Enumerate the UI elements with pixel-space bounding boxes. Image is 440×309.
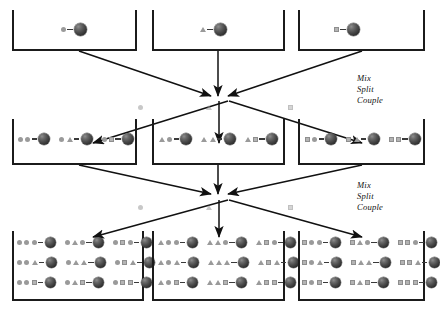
square-icon bbox=[396, 137, 401, 142]
g1-vessel-2 bbox=[152, 10, 285, 51]
bead-chain bbox=[258, 257, 299, 268]
bead-chain bbox=[351, 257, 392, 268]
bond-line bbox=[180, 282, 185, 284]
circle-icon bbox=[312, 137, 317, 142]
triangle-icon bbox=[81, 260, 87, 265]
triangle-icon bbox=[215, 280, 221, 285]
bead-chain bbox=[334, 23, 360, 36]
circle-icon bbox=[65, 240, 70, 245]
bond-line bbox=[229, 242, 234, 244]
square-icon bbox=[302, 280, 307, 285]
resin-bead-icon bbox=[236, 237, 247, 248]
triangle-icon bbox=[72, 240, 78, 245]
circle-icon bbox=[66, 260, 71, 265]
step-1-line-2: Split bbox=[357, 84, 383, 95]
circle-icon bbox=[32, 240, 37, 245]
pool-arrows-2 bbox=[79, 165, 362, 194]
triangle-icon bbox=[256, 240, 262, 245]
square-icon bbox=[398, 280, 403, 285]
bond-line bbox=[38, 242, 43, 244]
circle-icon bbox=[18, 137, 23, 142]
resin-bead-icon bbox=[266, 133, 278, 145]
circle-icon bbox=[174, 240, 179, 245]
bond-line bbox=[259, 138, 264, 140]
bond-line bbox=[39, 262, 44, 264]
triangle-icon bbox=[206, 205, 212, 210]
square-icon bbox=[389, 137, 394, 142]
bead-chain bbox=[113, 277, 152, 288]
bond-line bbox=[419, 242, 424, 244]
chain-row bbox=[200, 23, 227, 36]
bond-line bbox=[115, 138, 120, 140]
resin-bead-icon bbox=[378, 237, 389, 248]
square-icon bbox=[120, 240, 125, 245]
bond-line bbox=[207, 29, 212, 31]
chain-row bbox=[302, 257, 440, 268]
bond-line bbox=[278, 282, 283, 284]
triangle-icon bbox=[415, 260, 421, 265]
chain-row bbox=[17, 237, 152, 248]
bond-line bbox=[361, 138, 366, 140]
vessel-contents bbox=[12, 10, 137, 51]
circle-icon bbox=[309, 260, 314, 265]
bead-chain bbox=[113, 237, 152, 248]
bead-chain bbox=[302, 257, 342, 268]
square-icon bbox=[174, 280, 179, 285]
bond-line bbox=[137, 262, 142, 264]
chain-row bbox=[305, 133, 421, 145]
g1-vessel-1 bbox=[12, 10, 137, 51]
bead-chain bbox=[302, 277, 341, 288]
bond-line bbox=[371, 242, 376, 244]
bead-chain bbox=[17, 257, 57, 268]
triangle-icon bbox=[73, 260, 79, 265]
resin-bead-icon bbox=[285, 277, 296, 288]
vessel-contents bbox=[298, 119, 425, 165]
bond-line bbox=[181, 262, 186, 264]
pool-marker-2-triangle bbox=[206, 196, 212, 214]
resin-bead-icon bbox=[141, 237, 152, 248]
triangle-icon bbox=[72, 280, 78, 285]
bond-line bbox=[134, 242, 139, 244]
chain-row bbox=[159, 133, 278, 145]
bond-line bbox=[74, 138, 79, 140]
circle-icon bbox=[65, 280, 70, 285]
resin-bead-icon bbox=[95, 257, 106, 268]
bead-chain bbox=[245, 133, 278, 145]
bond-line bbox=[402, 138, 407, 140]
square-icon bbox=[80, 280, 85, 285]
square-icon bbox=[346, 137, 351, 142]
triangle-icon bbox=[358, 260, 364, 265]
circle-icon bbox=[113, 240, 118, 245]
vessel-contents bbox=[152, 231, 285, 301]
resin-bead-icon bbox=[330, 237, 341, 248]
resin-bead-icon bbox=[426, 237, 437, 248]
circle-icon bbox=[166, 260, 171, 265]
resin-bead-icon bbox=[38, 133, 50, 145]
resin-bead-icon bbox=[93, 277, 104, 288]
circle-icon bbox=[24, 280, 29, 285]
resin-bead-icon bbox=[141, 277, 152, 288]
square-icon bbox=[302, 240, 307, 245]
bond-line bbox=[281, 262, 286, 264]
triangle-icon bbox=[216, 260, 222, 265]
bead-chain bbox=[65, 237, 105, 248]
circle-icon bbox=[102, 137, 107, 142]
bond-line bbox=[229, 282, 234, 284]
square-icon bbox=[32, 280, 37, 285]
chain-row bbox=[302, 237, 437, 248]
bond-line bbox=[86, 242, 91, 244]
square-icon bbox=[413, 280, 418, 285]
pool-marker-1 bbox=[138, 96, 143, 114]
circle-icon bbox=[138, 105, 143, 110]
circle-icon bbox=[115, 260, 120, 265]
resin-bead-icon bbox=[380, 257, 391, 268]
triangle-icon bbox=[354, 137, 360, 142]
triangle-icon bbox=[274, 260, 280, 265]
chain-row bbox=[61, 23, 87, 36]
square-icon bbox=[405, 240, 410, 245]
circle-icon bbox=[167, 137, 172, 142]
bond-line bbox=[134, 282, 139, 284]
circle-icon bbox=[309, 280, 314, 285]
chain-row bbox=[158, 277, 296, 288]
step-2-line-1: Mix bbox=[357, 180, 383, 191]
